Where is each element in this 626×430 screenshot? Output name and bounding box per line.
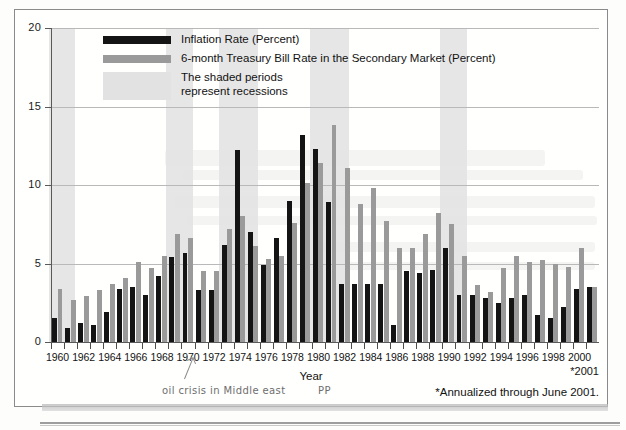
tbill-bar-1983	[358, 204, 363, 342]
inflation-bar-1969	[169, 257, 174, 342]
tbill-bar-1997	[540, 260, 545, 342]
x-axis-tick	[312, 343, 313, 349]
x-axis-label: 2000	[568, 351, 591, 363]
inflation-bar-1993	[483, 298, 488, 342]
tbill-bar-1974	[240, 216, 245, 342]
x-axis-label: 1964	[98, 351, 121, 363]
chart-plot-area: 05101520 1960196219641966196819701972197…	[15, 10, 607, 406]
x-axis-label: 1968	[150, 351, 173, 363]
x-axis-tick	[208, 343, 209, 349]
tbill-bar-1962	[84, 296, 89, 342]
inflation-bar-1966	[130, 287, 135, 342]
tbill-bar-1972	[214, 271, 219, 342]
inflation-bar-2001	[587, 287, 592, 342]
inflation-bar-1967	[143, 295, 148, 342]
tbill-bar-1981	[332, 125, 337, 342]
x-axis-label: 1998	[542, 351, 565, 363]
x-axis-label: 1984	[359, 351, 382, 363]
inflation-bar-1996	[522, 295, 527, 342]
black-bar-swatch-icon	[103, 36, 171, 44]
tbill-bar-1982	[345, 168, 350, 342]
tbill-bar-1988	[423, 234, 428, 342]
tbill-bar-1980	[318, 163, 323, 342]
scan-page-shadow	[42, 404, 608, 411]
y-axis-label: 5	[15, 258, 41, 269]
x-axis-label: 1988	[411, 351, 434, 363]
inflation-bar-1987	[404, 271, 409, 342]
x-axis-tick	[508, 343, 509, 349]
x-axis-label: 1986	[385, 351, 408, 363]
inflation-bar-1974	[235, 150, 240, 342]
y-axis-label: 20	[15, 22, 41, 33]
inflation-bar-1961	[65, 328, 70, 342]
x-axis-tick	[521, 343, 522, 349]
x-axis-tick	[547, 343, 548, 349]
x-axis-tick	[142, 343, 143, 349]
inflation-bar-1991	[457, 295, 462, 342]
tbill-bar-1985	[384, 221, 389, 342]
x-axis-tick	[103, 343, 104, 349]
footnote-annualized: *Annualized through June 2001.	[435, 386, 599, 398]
tbill-bar-1973	[227, 229, 232, 342]
x-axis-tick	[455, 343, 456, 349]
x-axis-tick	[534, 343, 535, 349]
inflation-bar-1984	[365, 284, 370, 342]
handwritten-note-oil-crisis: oil crisis in Middle east	[162, 385, 286, 396]
inflation-bar-1963	[91, 325, 96, 342]
inflation-bar-1975	[248, 232, 253, 342]
x-axis-tick	[586, 343, 587, 349]
tbill-bar-1990	[449, 224, 454, 342]
x-axis-label: 1996	[516, 351, 539, 363]
inflation-bar-1968	[156, 276, 161, 342]
gray-bar-swatch-icon	[103, 55, 171, 63]
x-axis-tick	[247, 343, 248, 349]
inflation-bar-1978	[287, 201, 292, 342]
tbill-bar-1978	[292, 223, 297, 342]
inflation-bar-1973	[222, 245, 227, 342]
tbill-bar-1996	[527, 262, 532, 342]
x-axis-label: 1990	[437, 351, 460, 363]
inflation-bar-1964	[104, 312, 109, 342]
legend-item-inflation: Inflation Rate (Percent)	[103, 32, 495, 46]
x-axis-tick	[129, 343, 130, 349]
x-axis-tick	[495, 343, 496, 349]
x-axis-tick	[573, 343, 574, 349]
inflation-bar-1994	[496, 303, 501, 342]
x-axis-title: Year	[15, 370, 607, 382]
tbill-bar-1986	[397, 248, 402, 342]
inflation-bar-1986	[391, 325, 396, 342]
tbill-bar-1970	[188, 238, 193, 342]
x-axis-tick	[338, 343, 339, 349]
x-axis-label: 1978	[281, 351, 304, 363]
x-axis-tick	[77, 343, 78, 349]
inflation-bar-1998	[548, 318, 553, 342]
x-axis-tick	[260, 343, 261, 349]
x-axis-tick	[560, 343, 561, 349]
legend-label-inflation: Inflation Rate (Percent)	[181, 32, 299, 46]
scanned-textbook-page: 05101520 1960196219641966196819701972197…	[0, 0, 626, 430]
x-axis-tick	[286, 343, 287, 349]
tbill-bar-1992	[475, 285, 480, 342]
tbill-bar-1964	[110, 284, 115, 342]
tbill-bar-1977	[279, 256, 284, 342]
tbill-bar-1987	[410, 248, 415, 342]
inflation-bar-1983	[352, 284, 357, 342]
tbill-bar-1993	[488, 292, 493, 342]
x-axis-tick	[429, 343, 430, 349]
inflation-bar-1992	[470, 295, 475, 342]
y-axis-label: 10	[15, 179, 41, 190]
tbill-bar-1967	[149, 268, 154, 342]
tbill-bar-1968	[162, 256, 167, 342]
x-axis-label: 1960	[46, 351, 69, 363]
tbill-bar-1994	[501, 268, 506, 342]
y-axis-label: 15	[15, 101, 41, 112]
tbill-bar-1999	[566, 267, 571, 342]
inflation-bar-1985	[378, 284, 383, 342]
x-axis-tick	[64, 343, 65, 349]
x-axis-label: 1966	[124, 351, 147, 363]
tbill-bar-1979	[305, 183, 310, 342]
inflation-bar-1999	[561, 307, 566, 342]
x-axis-tick	[403, 343, 404, 349]
x-axis-tick	[51, 343, 52, 349]
scan-bottom-rule-light	[40, 425, 620, 426]
